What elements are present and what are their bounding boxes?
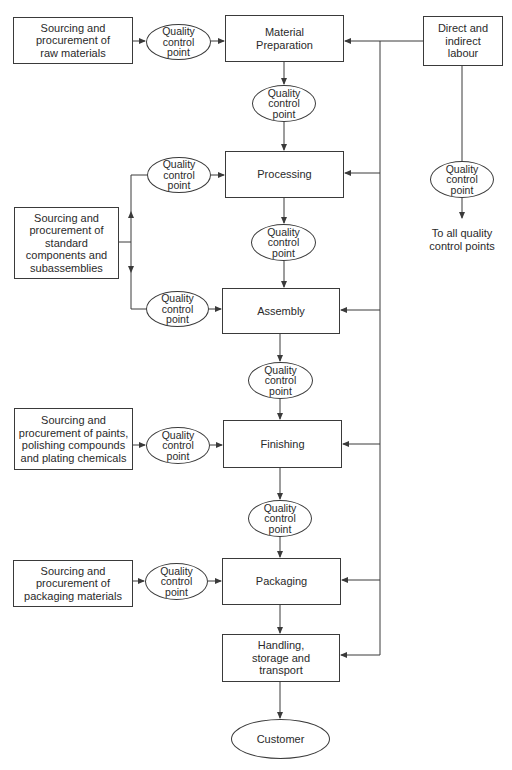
- source-raw-materials-box: Sourcing and procurement of raw material…: [13, 17, 133, 64]
- source-packaging-materials-label: Sourcing and procurement of packaging ma…: [24, 565, 122, 603]
- source-paints-label: Sourcing and procurement of paints, poli…: [19, 414, 128, 464]
- step-label: Assembly: [257, 305, 305, 318]
- qcp-label: Quality control point: [264, 503, 297, 535]
- labour-label: Direct and indirect labour: [438, 22, 488, 60]
- qcp-after-finishing: Quality control point: [248, 500, 312, 537]
- step-packaging: Packaging: [222, 558, 341, 605]
- source-standard-components-label: Sourcing and procurement of standard com…: [26, 212, 107, 275]
- step-assembly: Assembly: [222, 288, 340, 334]
- qcp-label: Quality control point: [163, 159, 196, 191]
- qcp-label: Quality control point: [162, 430, 195, 462]
- step-label: Material Preparation: [256, 26, 313, 51]
- step-handling-storage-transport: Handling, storage and transport: [222, 634, 340, 682]
- qcp-label: Quality control point: [268, 88, 301, 120]
- qcp-packaging-materials: Quality control point: [145, 563, 208, 600]
- qcp-assembly-input: Quality control point: [146, 291, 209, 327]
- step-label: Customer: [257, 734, 305, 745]
- step-finishing: Finishing: [223, 420, 342, 468]
- step-label: Processing: [257, 168, 311, 181]
- qcp-label: Quality control point: [162, 26, 195, 58]
- qcp-raw-materials: Quality control point: [146, 24, 211, 60]
- step-label: Packaging: [256, 575, 307, 588]
- source-raw-materials-label: Sourcing and procurement of raw material…: [36, 22, 110, 60]
- step-customer: Customer: [231, 719, 330, 759]
- step-label: Finishing: [260, 438, 304, 451]
- qcp-labour: Quality control point: [430, 161, 494, 198]
- qcp-label: Quality control point: [161, 293, 194, 325]
- step-processing: Processing: [225, 151, 344, 198]
- source-standard-components-box: Sourcing and procurement of standard com…: [14, 207, 119, 279]
- qcp-label: Quality control point: [267, 227, 300, 259]
- qcp-label: Quality control point: [264, 365, 297, 397]
- step-label: Handling, storage and transport: [252, 639, 310, 677]
- qcp-label: Quality control point: [160, 566, 193, 598]
- labour-box: Direct and indirect labour: [423, 16, 503, 66]
- qcp-processing-input: Quality control point: [147, 157, 211, 193]
- qcp-after-processing: Quality control point: [251, 224, 316, 261]
- qcp-label: Quality control point: [446, 164, 479, 196]
- step-material-preparation: Material Preparation: [225, 15, 344, 62]
- source-paints-box: Sourcing and procurement of paints, poli…: [14, 408, 133, 470]
- source-packaging-materials-box: Sourcing and procurement of packaging ma…: [13, 560, 133, 607]
- labour-target-text: To all quality control points: [410, 227, 512, 253]
- qcp-paints: Quality control point: [146, 427, 210, 464]
- qcp-after-material-preparation: Quality control point: [252, 85, 316, 122]
- qcp-after-assembly: Quality control point: [248, 362, 313, 399]
